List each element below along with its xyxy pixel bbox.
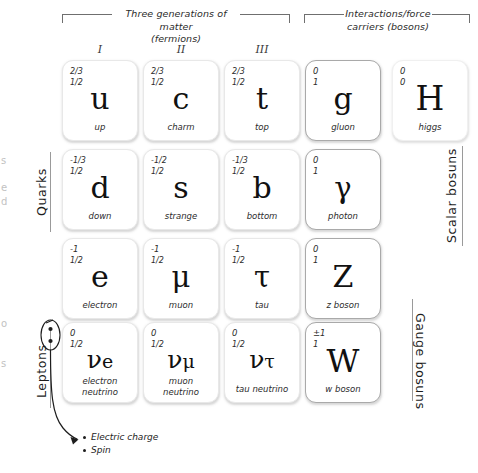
symbol-subscript-tau-neutrino: τ: [264, 350, 275, 372]
particle-name-tau: tau: [225, 300, 299, 311]
particle-symbol-top: t: [225, 83, 299, 113]
particle-name-muon-neutrino: muon neutrino: [144, 376, 218, 397]
generation-numeral-1: I: [62, 43, 138, 56]
generation-numeral-3: III: [224, 43, 300, 56]
charge-value-charm: 2/3: [151, 67, 164, 76]
legend-label-spin: Spin: [91, 445, 111, 455]
particle-name-bottom: bottom: [225, 211, 299, 222]
particle-name-down: down: [63, 211, 137, 222]
particle-cell-up[interactable]: 2/3 1/2 u up: [62, 60, 138, 141]
particle-cell-photon[interactable]: 0 1 γ photon: [305, 149, 381, 230]
particle-symbol-muon-neutrino: νμ: [144, 345, 218, 376]
charge-value-up: 2/3: [70, 67, 83, 76]
fermions-group-label: Three generations of matter (fermions): [112, 8, 240, 46]
particle-name-tau-neutrino: tau neutrino: [225, 384, 299, 395]
particle-symbol-tau: τ: [225, 261, 299, 291]
charge-value-tau-neutrino: 0: [232, 328, 237, 338]
particle-symbol-higgs: H: [393, 83, 467, 113]
bullet-icon-spin: [83, 449, 86, 452]
particle-name-strange: strange: [144, 211, 218, 222]
particle-name-zboson: z boson: [306, 300, 380, 311]
callout-arrowhead: [71, 437, 79, 445]
particle-cell-higgs[interactable]: 0 0 H higgs: [392, 60, 468, 141]
edge-remnant-4: o: [1, 318, 7, 329]
bullet-icon-charge: [83, 436, 86, 439]
edge-remnant-5: s: [1, 358, 6, 369]
charge-value-zboson: 0: [313, 244, 318, 254]
particle-cell-down[interactable]: -1/3 1/2 d down: [62, 149, 138, 230]
particle-name-muon: muon: [144, 300, 218, 311]
legend-item-spin: Spin: [83, 444, 158, 457]
symbol-subscript-muon-neutrino: μ: [182, 350, 194, 372]
particle-symbol-wboson: W: [306, 345, 380, 375]
particle-symbol-charm: c: [144, 83, 218, 113]
legend-label-charge: Electric charge: [91, 432, 158, 442]
particle-name-top: top: [225, 122, 299, 133]
particle-symbol-down: d: [63, 172, 137, 202]
charge-value-bottom: -1/3: [232, 156, 248, 165]
particle-cell-bottom[interactable]: -1/3 1/2 b bottom: [224, 149, 300, 230]
quarks-rule: [50, 152, 51, 232]
charge-value-top: 2/3: [232, 67, 245, 76]
particle-cell-charm[interactable]: 2/3 1/2 c charm: [143, 60, 219, 141]
charge-value-gluon: 0: [313, 66, 318, 76]
particle-name-charm: charm: [144, 122, 218, 133]
particle-name-higgs: higgs: [393, 122, 467, 133]
particle-cell-zboson[interactable]: 0 1 Z z boson: [305, 238, 381, 319]
charge-value-muon: -1: [151, 244, 159, 254]
particle-symbol-photon: γ: [306, 172, 380, 202]
symbol-base-muon-neutrino: ν: [167, 345, 182, 374]
charge-value-electron: -1: [70, 244, 78, 254]
standard-model-diagram: Three generations of matter (fermions) I…: [0, 0, 478, 473]
charge-value-strange: -1/2: [151, 156, 167, 165]
particle-cell-muon-neutrino[interactable]: 0 1/2 νμ muon neutrino: [143, 322, 219, 403]
particle-name-up: up: [63, 122, 137, 133]
particle-cell-top[interactable]: 2/3 1/2 t top: [224, 60, 300, 141]
particle-name-electron: electron: [63, 300, 137, 311]
scalar-bosons-label: Scalar bosuns: [444, 148, 459, 243]
particle-symbol-zboson: Z: [306, 261, 380, 291]
callout-tick: [46, 320, 53, 323]
particle-cell-tau-neutrino[interactable]: 0 1/2 ντ tau neutrino: [224, 322, 300, 403]
particle-symbol-bottom: b: [225, 172, 299, 202]
symbol-base-electron-neutrino: ν: [87, 345, 102, 374]
charge-value-higgs: 0: [400, 66, 405, 76]
particle-cell-strange[interactable]: -1/2 1/2 s strange: [143, 149, 219, 230]
edge-remnant-1: s: [1, 155, 6, 166]
symbol-subscript-electron-neutrino: e: [102, 350, 113, 372]
particle-symbol-electron: e: [63, 261, 137, 291]
particle-cell-electron-neutrino[interactable]: 0 1/2 νe electron neutrino: [62, 322, 138, 403]
generation-numeral-2: II: [143, 43, 219, 56]
scalar-bosons-rule: [462, 146, 463, 246]
charge-value-muon-neutrino: 0: [151, 328, 156, 338]
charge-value-down: -1/3: [70, 156, 86, 165]
charge-value-wboson: ±1: [313, 328, 326, 338]
legend: Electric charge Spin: [83, 431, 158, 457]
gauge-bosons-label: Gauge bosuns: [413, 313, 428, 410]
quarks-label: Quarks: [34, 168, 49, 216]
edge-remnant-3: d: [1, 196, 7, 207]
particle-name-photon: photon: [306, 211, 380, 222]
leptons-label: Leptons: [34, 344, 49, 398]
charge-value-photon: 0: [313, 155, 318, 165]
bosons-group-label: Interactions/force carriers (bosons): [340, 8, 436, 33]
particle-cell-electron[interactable]: -1 1/2 e electron: [62, 238, 138, 319]
particle-name-wboson: w boson: [306, 384, 380, 395]
legend-item-charge: Electric charge: [83, 431, 158, 444]
particle-cell-tau[interactable]: -1 1/2 τ tau: [224, 238, 300, 319]
charge-value-tau: -1: [232, 244, 240, 254]
particle-symbol-tau-neutrino: ντ: [225, 345, 299, 376]
leptons-rule: [50, 330, 51, 408]
particle-name-electron-neutrino: electron neutrino: [63, 376, 137, 397]
particle-symbol-electron-neutrino: νe: [63, 345, 137, 376]
particle-symbol-strange: s: [144, 172, 218, 202]
particle-name-gluon: gluon: [306, 122, 380, 133]
particle-symbol-up: u: [63, 83, 137, 113]
particle-cell-gluon[interactable]: 0 1 g gluon: [305, 60, 381, 141]
edge-remnant-2: e: [1, 182, 7, 193]
particle-cell-wboson[interactable]: ±1 1 W w boson: [305, 322, 381, 403]
charge-value-electron-neutrino: 0: [70, 328, 75, 338]
symbol-base-tau-neutrino: ν: [249, 345, 264, 374]
particle-cell-muon[interactable]: -1 1/2 μ muon: [143, 238, 219, 319]
particle-symbol-muon: μ: [144, 261, 218, 291]
